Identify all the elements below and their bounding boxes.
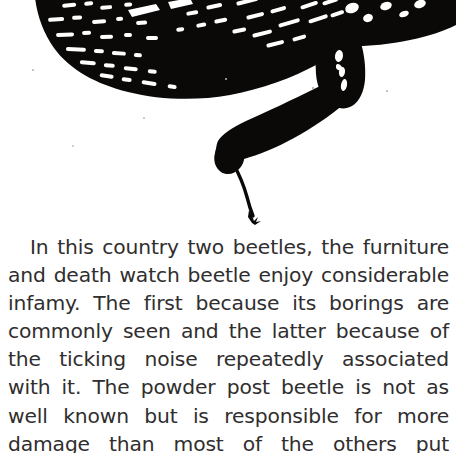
scanned-page: In this country two beetles, the furnitu… bbox=[0, 0, 456, 453]
beetle-illustration-artwork bbox=[0, 0, 456, 228]
article-paragraph: In this country two beetles, the furnitu… bbox=[8, 233, 449, 453]
beetle-illustration bbox=[0, 0, 456, 228]
article-body: In this country two beetles, the furnitu… bbox=[0, 233, 456, 453]
